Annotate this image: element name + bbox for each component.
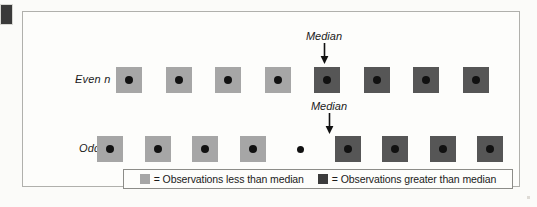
observation-even-n-2 [159, 60, 199, 100]
observation-dot [249, 145, 257, 153]
row-label-even: Even n [75, 73, 110, 85]
legend-entry-less: = Observations less than median [140, 173, 304, 185]
observation-odd-n-5 [280, 129, 320, 169]
observation-odd-n-2 [138, 129, 178, 169]
corner-marker-square [0, 4, 13, 25]
legend-swatch-less-icon [140, 174, 150, 184]
observation-even-n-7 [406, 60, 446, 100]
observation-dot [175, 76, 183, 84]
observation-odd-n-7 [375, 129, 415, 169]
median-label-odd: Median [289, 100, 369, 112]
observation-even-n-3 [208, 60, 248, 100]
observation-odd-n-3 [185, 129, 225, 169]
observation-dot [486, 145, 494, 153]
observation-even-n-6 [357, 60, 397, 100]
legend-entry-greater: = Observations greater than median [318, 173, 496, 185]
observation-dot [323, 76, 331, 84]
observation-dot [422, 76, 430, 84]
observation-dot [125, 76, 133, 84]
observation-even-n-4 [258, 60, 298, 100]
observation-odd-n-9 [470, 129, 510, 169]
scan-artifact-right [527, 196, 530, 199]
observation-odd-n-1 [90, 129, 130, 169]
legend-swatch-greater-icon [318, 174, 328, 184]
figure-root: Median Median Even n Odd n = Observation… [0, 0, 537, 207]
observation-dot [373, 76, 381, 84]
legend: = Observations less than median = Observ… [123, 169, 513, 189]
observation-even-n-5 [307, 60, 347, 100]
observation-dot [154, 145, 162, 153]
median-dot [297, 146, 304, 153]
observation-dot [439, 145, 447, 153]
observation-dot [391, 145, 399, 153]
observation-dot [106, 145, 114, 153]
legend-text-less: = Observations less than median [154, 173, 304, 185]
observation-dot [201, 145, 209, 153]
observation-odd-n-4 [233, 129, 273, 169]
observation-dot [472, 76, 480, 84]
observation-dot [224, 76, 232, 84]
legend-text-greater: = Observations greater than median [332, 173, 496, 185]
observation-dot [344, 145, 352, 153]
observation-even-n-1 [109, 60, 149, 100]
median-label-even: Median [284, 30, 364, 42]
observation-odd-n-6 [328, 129, 368, 169]
diagram-panel: Median Median Even n Odd n = Observation… [22, 11, 520, 187]
observation-dot [274, 76, 282, 84]
observation-odd-n-8 [423, 129, 463, 169]
observation-even-n-8 [456, 60, 496, 100]
